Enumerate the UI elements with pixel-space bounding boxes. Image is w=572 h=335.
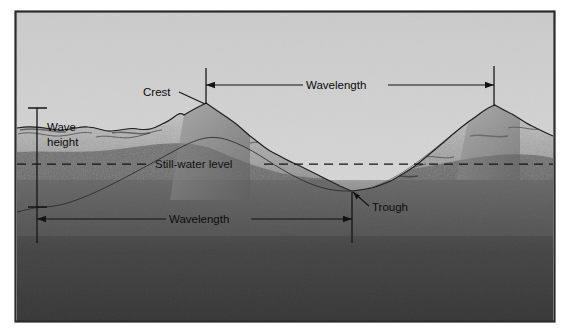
wavelength-top-label: Wavelength [306,79,366,91]
wave-diagram-svg: Still-water level Wave height [0,0,572,335]
crest-label: Crest [143,86,171,98]
diagram-canvas: Still-water level Wave height [16,12,554,326]
wave-height-label-line2: height [47,136,79,148]
trough-label: Trough [372,201,408,213]
wavelength-bottom-label: Wavelength [169,213,229,225]
deep-water-band [16,236,554,326]
wave-diagram-figure: Still-water level Wave height [0,0,572,335]
still-water-level-label: Still-water level [155,158,232,170]
wave-height-label-line1: Wave [47,121,76,133]
